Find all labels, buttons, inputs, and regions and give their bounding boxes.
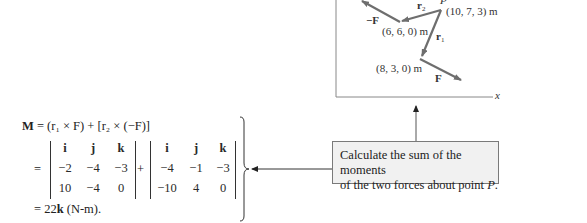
det2-r1-c2: j [181,141,211,156]
point-a-coords: (6, 6, 0) m [382,25,428,37]
det2-r2-c2: −1 [181,161,211,176]
det1-r3-c2: −4 [78,181,108,196]
plus-sign: + [137,162,144,177]
det2-r3-c2: 4 [181,181,211,196]
equation-line-1-rest: = (r₁ × F) + [r₂ × (−F)] [34,119,150,133]
det2-r1-c3: k [208,141,238,156]
point-p-coords: (10, 7, 3) m [446,5,498,17]
det1-r1-c2: j [78,141,108,156]
r2-label: r2 [417,0,425,13]
det1-r2-c1: −2 [50,161,80,176]
det1-r1-c1: i [50,141,80,156]
moment-symbol: M [22,119,34,133]
equation-result: = 22k (N-m). [34,202,101,217]
det2-r2-c1: −4 [152,161,182,176]
callout-line-2: of the two forces about point P. [340,178,498,193]
r1-label: r1 [436,30,444,44]
det1-r3-c3: 0 [106,181,136,196]
det1-r1-c3: k [106,141,136,156]
det1-r2-c2: −4 [78,161,108,176]
instruction-callout: Calculate the sum of the moments of the … [332,141,499,184]
equals-sign: = [34,162,41,177]
det2-r1-c1: i [152,141,182,156]
det2-r2-c3: −3 [208,161,238,176]
right-brace [240,117,249,221]
det1-r3-c1: 10 [50,181,80,196]
force-label: F [435,72,442,84]
x-axis-label: x [495,89,500,101]
det1-r2-c3: −3 [106,161,136,176]
callout-line-1: Calculate the sum of the moments [340,148,498,178]
det2-r3-c3: 0 [208,181,238,196]
equation-line-1: M = (r₁ × F) + [r₂ × (−F)] [22,119,150,134]
det2-r3-c1: −10 [152,181,182,196]
point-b-coords: (8, 3, 0) m [376,62,422,74]
neg-force-label: −F [366,14,379,26]
